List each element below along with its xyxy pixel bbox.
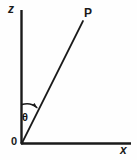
ray-line (22, 21, 83, 143)
geometry-diagram: z x P 0 θ (0, 0, 137, 160)
theta-angle-label: θ (22, 112, 28, 123)
z-axis-label: z (8, 3, 14, 15)
origin-dot (20, 141, 23, 144)
origin-label: 0 (11, 136, 17, 147)
x-axis-label: x (120, 144, 127, 156)
diagram-canvas (0, 0, 137, 160)
angle-arrow-head-icon (32, 103, 37, 108)
point-p-label: P (84, 7, 92, 19)
